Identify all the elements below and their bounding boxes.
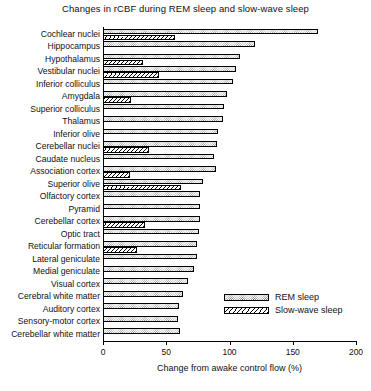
category-label: Optic tract <box>61 229 100 239</box>
x-axis-tick-label: 100 <box>210 347 250 357</box>
x-axis-tick-label: 150 <box>273 347 313 357</box>
x-axis-tick-label: 50 <box>146 347 186 357</box>
chart-row: Thalamus <box>0 116 371 128</box>
bar-rem-sleep <box>103 29 318 35</box>
category-label: Association cortex <box>30 166 100 176</box>
chart-row: Cochlear nuclei <box>0 29 371 41</box>
bar-rem-sleep <box>103 154 214 160</box>
legend-swatch-rem-sleep <box>224 294 269 302</box>
bar-rem-sleep <box>103 191 200 197</box>
chart-title: Changes in rCBF during REM sleep and slo… <box>0 3 371 14</box>
chart-row: Amygdala <box>0 91 371 103</box>
chart-row: Lateral geniculate <box>0 253 371 265</box>
bar-rem-sleep <box>103 166 216 172</box>
category-label: Lateral geniculate <box>32 254 100 264</box>
chart-row: Inferior colliculus <box>0 78 371 90</box>
chart-row: Association cortex <box>0 166 371 178</box>
x-axis-tick <box>356 341 357 345</box>
category-label: Cerebellar nuclei <box>36 141 101 151</box>
bar-rem-sleep <box>103 129 218 135</box>
category-label: Thalamus <box>62 116 100 126</box>
chart-row: Superior colliculus <box>0 103 371 115</box>
bar-slow-wave-sleep <box>103 147 149 153</box>
category-label: Inferior colliculus <box>36 79 100 89</box>
bar-rem-sleep <box>103 141 217 147</box>
bar-rem-sleep <box>103 241 197 247</box>
category-label: Cerebellar cortex <box>35 216 100 226</box>
category-label: Visual cortex <box>51 279 100 289</box>
category-label: Hippocampus <box>47 41 100 51</box>
category-label: Superior olive <box>47 179 100 189</box>
chart-row: Cerebellar cortex <box>0 216 371 228</box>
bar-slow-wave-sleep <box>103 247 137 253</box>
chart-row: Cerebellar nuclei <box>0 141 371 153</box>
bar-rem-sleep <box>103 291 183 297</box>
category-label: Reticular formation <box>28 241 100 251</box>
category-label: Caudate nucleus <box>36 154 101 164</box>
category-label: Inferior olive <box>53 129 100 139</box>
bar-rem-sleep <box>103 79 233 85</box>
bar-rem-sleep <box>103 229 199 235</box>
bar-rem-sleep <box>103 278 188 284</box>
category-label: Cochlear nuclei <box>41 29 100 39</box>
bar-rem-sleep <box>103 303 179 309</box>
bar-rem-sleep <box>103 66 236 72</box>
bar-rem-sleep <box>103 41 255 47</box>
legend-label-rem-sleep: REM sleep <box>275 292 319 302</box>
bar-rem-sleep <box>103 54 240 60</box>
bar-slow-wave-sleep <box>103 172 130 178</box>
legend-swatch-slow-wave-sleep <box>224 307 269 315</box>
category-label: Hypothalamus <box>45 54 100 64</box>
bar-slow-wave-sleep <box>103 35 175 41</box>
chart-row: Olfactory cortex <box>0 191 371 203</box>
bar-rem-sleep <box>103 266 194 272</box>
category-label: Medial geniculate <box>33 266 100 276</box>
category-label: Pyramid <box>68 204 100 214</box>
bar-rem-sleep <box>103 204 200 210</box>
x-axis-title: Change from awake control flow (%) <box>103 363 356 373</box>
category-label: Vestibular nuclei <box>37 66 100 76</box>
bar-rem-sleep <box>103 216 200 222</box>
x-axis-tick-label: 200 <box>336 347 371 357</box>
category-label: Cerebellar white matter <box>11 329 100 339</box>
chart-row: Hypothalamus <box>0 53 371 65</box>
chart-row: Visual cortex <box>0 278 371 290</box>
chart-row: Inferior olive <box>0 128 371 140</box>
chart-row: Superior olive <box>0 178 371 190</box>
chart-container: Changes in rCBF during REM sleep and slo… <box>0 0 371 391</box>
x-axis-tick <box>293 341 294 345</box>
bar-slow-wave-sleep <box>103 185 181 191</box>
chart-row: Medial geniculate <box>0 266 371 278</box>
bar-slow-wave-sleep <box>103 222 145 228</box>
x-axis-tick <box>103 341 104 345</box>
category-label: Cerebral white matter <box>18 291 100 301</box>
x-axis-tick <box>166 341 167 345</box>
bar-rem-sleep <box>103 104 224 110</box>
x-axis-tick-label: 0 <box>83 347 123 357</box>
bar-slow-wave-sleep <box>103 60 143 66</box>
category-label: Auditory cortex <box>43 304 100 314</box>
x-axis-tick <box>230 341 231 345</box>
chart-row: Reticular formation <box>0 241 371 253</box>
bar-rem-sleep <box>103 316 178 322</box>
bar-rem-sleep <box>103 116 223 122</box>
category-label: Sensory-motor cortex <box>18 316 100 326</box>
chart-row: Pyramid <box>0 203 371 215</box>
category-label: Amygdala <box>62 91 100 101</box>
category-label: Superior colliculus <box>30 104 100 114</box>
bar-rem-sleep <box>103 328 180 334</box>
bar-rem-sleep <box>103 254 197 260</box>
chart-row: Optic tract <box>0 228 371 240</box>
bar-slow-wave-sleep <box>103 72 159 78</box>
bar-rem-sleep <box>103 179 203 185</box>
chart-row: Vestibular nuclei <box>0 66 371 78</box>
chart-row: Cerebellar white matter <box>0 328 371 340</box>
chart-row: Sensory-motor cortex <box>0 316 371 328</box>
chart-row: Hippocampus <box>0 41 371 53</box>
bar-slow-wave-sleep <box>103 97 131 103</box>
bar-rem-sleep <box>103 91 227 97</box>
category-label: Olfactory cortex <box>40 191 100 201</box>
chart-row: Caudate nucleus <box>0 153 371 165</box>
legend-label-slow-wave-sleep: Slow-wave sleep <box>275 305 343 315</box>
